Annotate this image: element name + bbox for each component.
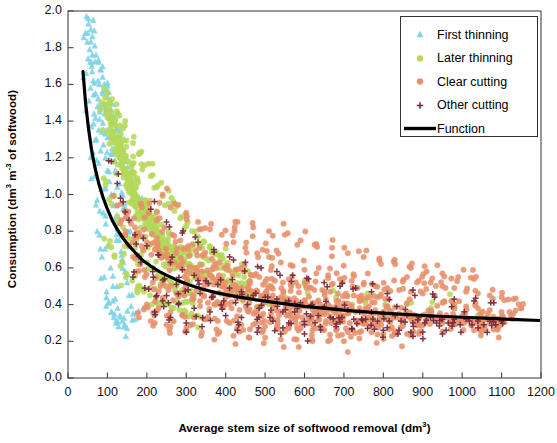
data-point-circle [496, 335, 502, 341]
data-point-circle [419, 323, 425, 329]
data-point-circle [247, 281, 253, 287]
data-point-circle [268, 283, 274, 289]
data-point-circle [185, 246, 191, 252]
data-point-circle [100, 127, 106, 133]
data-point-circle [293, 316, 299, 322]
data-point-circle [137, 287, 143, 293]
data-point-circle [202, 225, 208, 231]
data-point-circle [130, 169, 136, 175]
data-point-circle [101, 236, 107, 242]
data-point-circle [454, 278, 460, 284]
data-point-circle [295, 242, 301, 248]
data-point-circle [209, 256, 215, 262]
data-point-circle [137, 150, 143, 156]
legend-label: First thinning [437, 28, 509, 42]
data-point-circle [182, 314, 188, 320]
y-tick-label: 0.0 [24, 370, 62, 384]
legend-circle [417, 79, 423, 85]
data-point-circle [142, 215, 148, 221]
data-point-circle [281, 221, 287, 227]
data-point-circle [264, 248, 270, 254]
data-point-circle [269, 255, 275, 261]
legend-item-function[interactable]: Function [403, 118, 535, 139]
data-point-circle [222, 284, 228, 290]
data-point-circle [168, 205, 174, 211]
data-point-circle [327, 289, 333, 295]
data-point-circle [119, 259, 125, 265]
data-point-circle [247, 326, 253, 332]
data-point-circle [165, 237, 171, 243]
data-point-circle [168, 283, 174, 289]
data-point-circle [189, 242, 195, 248]
data-point-circle [213, 265, 219, 271]
data-point-circle [358, 296, 364, 302]
data-point-circle [263, 241, 269, 247]
data-point-circle [233, 283, 239, 289]
data-point-circle [248, 272, 254, 278]
data-point-circle [435, 262, 441, 268]
data-point-circle [255, 254, 261, 260]
data-point-circle [153, 259, 159, 265]
data-point-circle [178, 238, 184, 244]
data-point-circle [233, 341, 239, 347]
data-point-circle [102, 85, 108, 91]
data-point-circle [262, 318, 268, 324]
data-point-circle [121, 170, 127, 176]
data-point-circle [296, 344, 302, 350]
data-point-circle [345, 250, 351, 256]
data-point-circle [296, 328, 302, 334]
legend-item-other-cutting[interactable]: Other cutting [403, 95, 535, 116]
data-point-circle [499, 290, 505, 296]
data-point-circle [345, 349, 351, 355]
data-point-circle [243, 245, 249, 251]
data-point-circle [224, 318, 230, 324]
y-tick-label: 0.2 [24, 333, 62, 347]
legend-label: Function [437, 122, 485, 136]
data-point-circle [364, 295, 370, 301]
legend-item-clear-cutting[interactable]: Clear cutting [403, 71, 535, 92]
legend-item-later-thinning[interactable]: Later thinning [403, 48, 535, 69]
data-point-circle [316, 298, 322, 304]
data-point-circle [219, 232, 225, 238]
data-point-circle [389, 333, 395, 339]
data-point-circle [167, 326, 173, 332]
data-point-circle [312, 326, 318, 332]
legend-label: Other cutting [437, 98, 509, 112]
data-point-circle [377, 293, 383, 299]
data-point-circle [110, 193, 116, 199]
data-point-circle [333, 310, 339, 316]
data-point-circle [364, 248, 370, 254]
data-point-circle [198, 333, 204, 339]
data-point-circle [109, 135, 115, 141]
data-point-circle [172, 233, 178, 239]
data-point-circle [123, 275, 129, 281]
data-point-circle [151, 287, 157, 293]
data-point-circle [237, 307, 243, 313]
data-point-circle [219, 254, 225, 260]
data-point-circle [167, 268, 173, 274]
data-point-circle [433, 283, 439, 289]
data-point-circle [196, 245, 202, 251]
data-point-circle [268, 267, 274, 273]
data-point-circle [207, 272, 213, 278]
data-point-circle [438, 279, 444, 285]
data-point-circle [327, 337, 333, 343]
data-point-circle [142, 267, 148, 273]
data-point-circle [313, 279, 319, 285]
data-point-circle [250, 233, 256, 239]
legend-label: Clear cutting [437, 75, 507, 89]
data-point-circle [232, 224, 238, 230]
data-point-circle [470, 267, 476, 273]
legend-item-first-thinning[interactable]: First thinning [403, 24, 535, 45]
data-point-circle [130, 154, 136, 160]
data-point-circle [302, 267, 308, 273]
data-point-circle [351, 272, 357, 278]
data-point-circle [124, 138, 130, 144]
data-point-circle [200, 252, 206, 258]
data-point-circle [117, 144, 123, 150]
data-point-circle [194, 269, 200, 275]
data-point-circle [154, 235, 160, 241]
data-point-circle [369, 299, 375, 305]
data-point-circle [400, 286, 406, 292]
data-point-circle [152, 247, 158, 253]
